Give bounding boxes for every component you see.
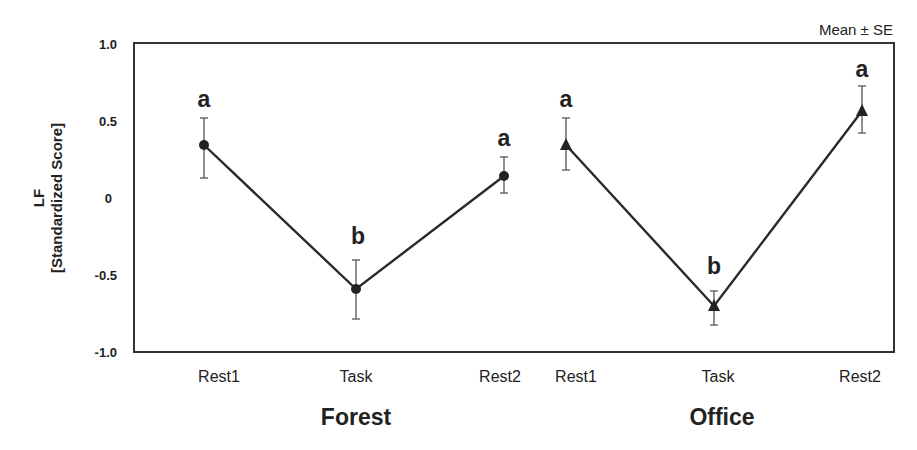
forest-rest2-sig: a xyxy=(498,125,511,151)
xtick-office-rest1: Rest1 xyxy=(555,368,597,385)
office-rest2-sig: a xyxy=(856,56,869,82)
ytick-label: 1.0 xyxy=(99,37,117,52)
ytick-label: 0 xyxy=(105,191,112,206)
y-axis-sublabel: [Standardized Score] xyxy=(48,123,65,273)
office-task-sig: b xyxy=(707,253,721,279)
forest-task-sig: b xyxy=(351,223,365,249)
ytick-label: -0.5 xyxy=(95,268,117,283)
office-error-bars xyxy=(562,86,866,325)
xtick-office-task: Task xyxy=(702,368,736,385)
office-rest2-marker xyxy=(856,104,868,116)
forest-rest1-sig: a xyxy=(198,86,211,112)
series-office: a b a xyxy=(560,56,869,325)
group-label-forest: Forest xyxy=(321,404,392,430)
office-rest1-sig: a xyxy=(560,86,573,112)
forest-line xyxy=(204,145,504,289)
group-label-office: Office xyxy=(689,404,754,430)
xtick-office-rest2: Rest2 xyxy=(839,368,881,385)
ytick-label: -1.0 xyxy=(95,345,117,360)
office-rest1-marker xyxy=(560,138,572,150)
series-forest: a b a xyxy=(198,86,511,319)
forest-rest1-marker xyxy=(199,140,209,150)
forest-rest2-marker xyxy=(499,171,509,181)
forest-task-marker xyxy=(351,284,361,294)
xtick-forest-rest1: Rest1 xyxy=(198,368,240,385)
mean-se-annotation: Mean ± SE xyxy=(819,21,893,38)
xtick-forest-task: Task xyxy=(340,368,374,385)
ytick-label: 0.5 xyxy=(99,114,117,129)
plot-frame xyxy=(134,43,894,352)
y-axis-label: LF xyxy=(30,189,47,207)
chart-canvas: Mean ± SE 1.0 0.5 0 -0.5 -1.0 LF [Standa… xyxy=(0,0,917,450)
xtick-forest-rest2: Rest2 xyxy=(479,368,521,385)
